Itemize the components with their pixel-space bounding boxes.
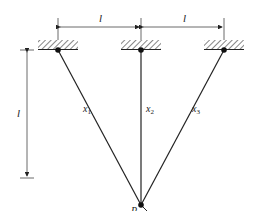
label-x1: x1 [82, 103, 91, 116]
label-p: P [130, 205, 137, 211]
truss-diagram: l l l x1 x2 x3 P [0, 0, 257, 211]
joint-p [138, 202, 144, 208]
joint-left [55, 47, 61, 53]
dim-label-right: l [183, 12, 186, 24]
dim-label-vertical: l [17, 107, 20, 119]
load-arrow [143, 207, 154, 211]
joint-right [221, 47, 227, 53]
horizontal-dimension [58, 18, 224, 40]
dim-label-left: l [99, 12, 102, 24]
member-x1 [58, 50, 141, 205]
label-x3: x3 [191, 103, 200, 116]
label-x2: x2 [145, 103, 154, 116]
vertical-dimension [20, 50, 34, 178]
member-x3 [141, 50, 224, 205]
joint-middle [138, 47, 144, 53]
